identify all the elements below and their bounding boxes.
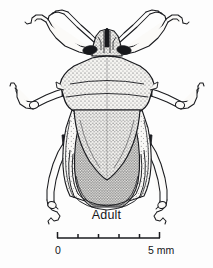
scale-bar-max-label: 5 mm xyxy=(148,244,174,256)
specimen-stage-caption: Adult xyxy=(0,208,213,222)
scale-bar-min-label: 0 xyxy=(55,244,61,256)
stink-bug-drawing xyxy=(0,0,213,268)
bug-illustration-figure: Adult 0 5 mm xyxy=(0,0,213,268)
